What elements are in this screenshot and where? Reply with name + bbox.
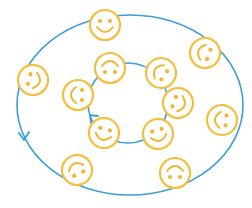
smiley-outline <box>159 84 197 122</box>
inner-smiley-face-icon <box>159 84 197 122</box>
outer-smiley-face-icon <box>206 104 239 137</box>
inner-smiley-face-icon <box>140 116 177 153</box>
outer-smiley-face-icon <box>57 150 97 190</box>
smiley-cycle-diagram <box>0 0 252 208</box>
outer-smiley-face-icon <box>186 34 224 72</box>
smiley-eye-icon <box>80 88 84 92</box>
smiley-eye-icon <box>98 19 102 23</box>
outer-smiley-face-icon <box>160 158 190 188</box>
inner-smiley-face-icon <box>63 80 93 110</box>
smiley-outline <box>95 53 125 83</box>
smiley-outline <box>57 150 97 190</box>
smiley-eye-icon <box>178 175 182 179</box>
outer-smiley-face-icon <box>15 62 52 99</box>
smiley-outline <box>63 80 93 110</box>
faces-layer <box>15 10 239 190</box>
inner-smiley-face-icon <box>95 53 125 83</box>
smiley-outline <box>160 158 190 188</box>
smiley-outline <box>186 34 224 72</box>
smiley-outline <box>15 62 52 99</box>
smiley-outline <box>206 104 239 137</box>
smiley-eye-icon <box>103 70 107 74</box>
smiley-outline <box>90 10 120 40</box>
smiley-outline <box>140 116 177 153</box>
smiley-eye-icon <box>80 98 84 102</box>
smiley-eye-icon <box>108 19 112 23</box>
diagram-canvas <box>0 0 252 208</box>
outer-smiley-face-icon <box>90 10 120 40</box>
smiley-eye-icon <box>113 70 117 74</box>
smiley-eye-icon <box>168 175 172 179</box>
